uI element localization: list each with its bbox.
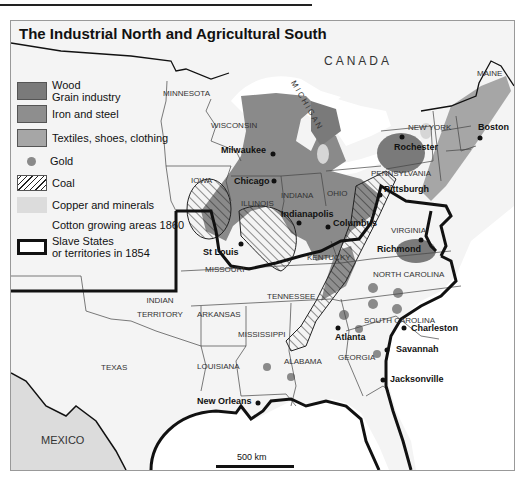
label-mississippi: MISSISSIPPI bbox=[238, 330, 286, 339]
label-indian: INDIAN bbox=[137, 294, 183, 308]
scale-bar-label: 500 km bbox=[237, 452, 267, 462]
city-savannah: Savannah bbox=[396, 344, 439, 354]
label-north-carolina: NORTH CAROLINA bbox=[373, 270, 444, 279]
copper-patch bbox=[317, 144, 329, 164]
label-indiana: INDIANA bbox=[281, 191, 313, 200]
gold-dot-icon bbox=[27, 157, 36, 166]
legend-label: Wood bbox=[52, 79, 120, 91]
label-texas: TEXAS bbox=[101, 363, 127, 372]
label-territory: TERRITORY bbox=[137, 308, 183, 322]
scale-bar bbox=[216, 465, 294, 468]
copper-swatch bbox=[17, 197, 47, 213]
city-new-orleans: New Orleans bbox=[197, 396, 252, 406]
city-indianapolis: Indianapolis bbox=[281, 209, 334, 219]
city-chicago: Chicago bbox=[234, 176, 270, 186]
coal-hatch-icon bbox=[17, 175, 47, 191]
label-mexico: MEXICO bbox=[41, 434, 84, 446]
cotton-swatch bbox=[17, 217, 47, 233]
legend-label: Copper and minerals bbox=[52, 199, 154, 211]
map-frame: The Industrial North and Agricultural So… bbox=[10, 20, 515, 471]
label-missouri: MISSOURI bbox=[205, 265, 245, 274]
wood-swatch bbox=[17, 82, 47, 100]
label-illinois: ILLINOIS bbox=[241, 199, 274, 208]
label-virginia: VIRGINIA bbox=[391, 226, 426, 235]
top-rule bbox=[0, 4, 312, 6]
legend-item-copper: Copper and minerals bbox=[17, 197, 154, 213]
legend-label: Coal bbox=[52, 177, 75, 189]
legend-label: Iron and steel bbox=[52, 108, 119, 120]
legend-label: Grain industry bbox=[52, 91, 120, 103]
label-pennsylvania: PENNSYLVANIA bbox=[371, 169, 431, 178]
legend-item-slave-states: Slave States or territories in 1854 bbox=[17, 235, 150, 259]
legend-item-iron: Iron and steel bbox=[17, 105, 119, 123]
city-milwaukee: Milwaukee bbox=[221, 145, 266, 155]
legend-label: Gold bbox=[50, 155, 73, 167]
label-wisconsin: WISCONSIN bbox=[211, 121, 257, 130]
label-ohio: OHIO bbox=[327, 189, 347, 198]
city-rochester: Rochester bbox=[394, 142, 438, 152]
city-st-louis: St Louis bbox=[203, 247, 239, 257]
label-kentucky: KENTUCKY bbox=[307, 253, 351, 262]
label-arkansas: ARKANSAS bbox=[197, 310, 241, 319]
legend-item-coal: Coal bbox=[17, 175, 75, 191]
label-louisiana: LOUISIANA bbox=[197, 362, 240, 371]
label-tennessee: TENNESSEE bbox=[267, 292, 315, 301]
legend-label: Cotton growing areas 1860 bbox=[52, 219, 184, 231]
textiles-swatch bbox=[17, 129, 47, 147]
legend-label: or territories in 1854 bbox=[52, 247, 150, 259]
legend-item-cotton: Cotton growing areas 1860 bbox=[17, 217, 184, 233]
label-minnesota: MINNESOTA bbox=[163, 89, 210, 98]
city-atlanta: Atlanta bbox=[335, 332, 366, 342]
label-alabama: ALABAMA bbox=[284, 357, 322, 366]
label-iowa: IOWA bbox=[191, 176, 212, 185]
legend-item-wood: Wood Grain industry bbox=[17, 79, 120, 103]
legend-item-textiles: Textiles, shoes, clothing bbox=[17, 129, 168, 147]
legend-item-gold: Gold bbox=[17, 155, 73, 167]
label-canada: CANADA bbox=[324, 54, 392, 68]
map-title: The Industrial North and Agricultural So… bbox=[19, 25, 327, 42]
iron-swatch bbox=[17, 105, 47, 123]
coal-iowa bbox=[187, 179, 231, 239]
city-richmond: Richmond bbox=[377, 244, 421, 254]
slave-states-swatch bbox=[17, 239, 47, 255]
label-indian-territory: INDIAN TERRITORY bbox=[137, 294, 183, 322]
legend-label: Slave States bbox=[52, 235, 150, 247]
label-maine: MAINE bbox=[477, 69, 502, 78]
label-georgia: GEORGIA bbox=[338, 353, 375, 362]
label-new-york: NEW YORK bbox=[408, 123, 451, 132]
city-pittsburgh: Pittsburgh bbox=[384, 184, 429, 194]
city-boston: Boston bbox=[478, 122, 509, 132]
city-columbus: Columbus bbox=[333, 218, 377, 228]
city-jacksonville: Jacksonville bbox=[390, 374, 444, 384]
legend-label: Textiles, shoes, clothing bbox=[52, 132, 168, 144]
city-charleston: Charleston bbox=[411, 323, 458, 333]
